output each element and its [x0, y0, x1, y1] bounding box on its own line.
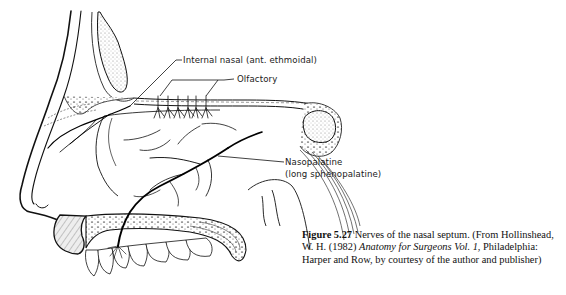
caption-book-title: Anatomy for Surgeons Vol. 1: [359, 241, 478, 252]
frontal-sinus: [92, 12, 134, 101]
internal-nasal-nerve: [48, 106, 130, 152]
leader-nasopalatine: [218, 156, 284, 162]
figure-number: Figure 5.27: [302, 229, 352, 240]
sphenoid-sinus: [300, 103, 342, 156]
figure: Internal nasal (ant. ethmoidal) Olfactor…: [0, 0, 566, 295]
septal-outline: [96, 116, 118, 196]
soft-palate: [248, 180, 310, 250]
label-internal-nasal: Internal nasal (ant. ethmoidal): [183, 55, 317, 65]
upper-lip: [54, 215, 86, 254]
label-nasopalatine-alt: (long sphenopalatine): [285, 169, 381, 179]
label-olfactory: Olfactory: [237, 74, 277, 84]
leader-olfactory: [160, 79, 234, 96]
figure-caption: Figure 5.27 Nerves of the nasal septum. …: [302, 229, 564, 266]
nasal-bone: [64, 96, 134, 114]
label-nasopalatine: Nasopalatine: [285, 157, 343, 167]
septal-nerve-branches: [124, 123, 236, 150]
teeth: [85, 238, 212, 276]
